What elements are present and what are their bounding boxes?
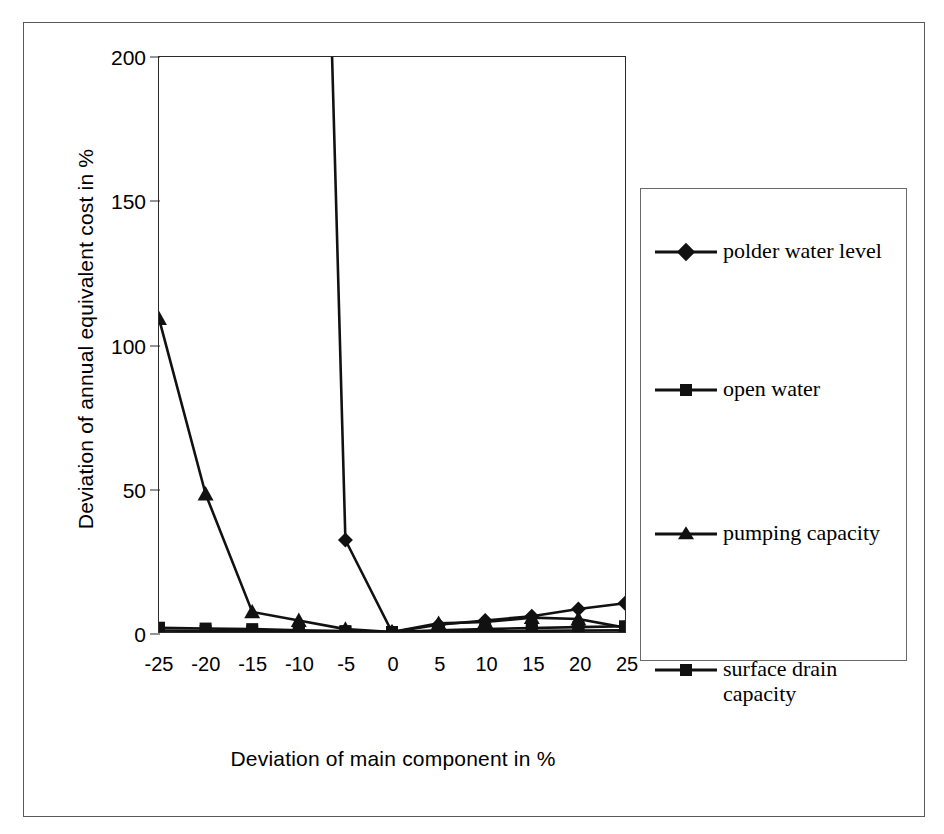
x-axis-tick-label: 5 [434,654,445,674]
data-point-marker-triangle [244,604,260,618]
legend-symbol-square-icon [655,659,717,681]
plot-area: 050100150200-25-20-15-10-50510152025 [158,56,626,633]
x-axis-tick-label: -15 [238,654,267,674]
data-point-marker-diamond [338,533,353,548]
x-axis-tick-label: -10 [285,654,314,674]
y-axis-title: Deviation of annual equivalent cost in % [74,59,108,619]
data-point-marker-square [433,625,445,632]
legend-symbol-triangle-icon [655,523,717,545]
data-point-marker-square [386,626,398,632]
x-axis-tick-label: -25 [145,654,174,674]
scanned-figure-page: Deviation of annual equivalent cost in %… [0,0,944,834]
x-axis-tick-label: 20 [569,654,591,674]
x-axis-tick-label: 10 [475,654,497,674]
square-marker-icon [680,384,692,396]
x-axis-tick-label: 15 [522,654,544,674]
y-axis-tick-label: 150 [111,191,146,212]
y-axis-title-text: Deviation of annual equivalent cost in % [74,149,98,529]
data-point-marker-diamond [618,596,625,611]
legend-symbol-diamond-icon [655,241,717,263]
data-point-marker-square [339,626,351,632]
data-point-marker-square [293,625,305,632]
y-axis-tick-label: 200 [111,47,146,68]
y-axis-tick-mark [150,57,160,58]
legend-item-polder-water-level[interactable]: polder water level [655,239,898,264]
y-axis-tick-label: 50 [123,479,146,500]
triangle-marker-icon [678,526,694,539]
legend-label: polder water level [717,239,882,264]
y-axis-tick-label: 0 [134,624,146,645]
figure-caption [30,820,550,832]
data-point-marker-triangle [198,486,214,500]
series-group [159,57,625,632]
data-point-marker-square [479,625,491,632]
x-axis-tick-label: 0 [387,654,398,674]
legend-item-surface-drain-capacity[interactable]: surface drain capacity [655,657,898,706]
y-axis-tick-mark [150,489,160,490]
x-axis-tick-label: 25 [616,654,638,674]
plot-svg [159,57,625,632]
legend-item-pumping-capacity[interactable]: pumping capacity [655,521,898,546]
x-axis-tick-label: -5 [337,654,355,674]
diamond-marker-icon [677,243,695,261]
y-axis-tick-label: 100 [111,335,146,356]
data-point-marker-square [526,625,538,632]
series-line [299,57,625,632]
x-axis-title: Deviation of main component in % [133,747,653,771]
x-axis-tick-label: -20 [191,654,220,674]
data-point-marker-square [572,625,584,632]
series-line [159,319,625,632]
y-axis-tick-mark [150,634,160,635]
chart-legend: polder water levelopen waterpumping capa… [640,188,907,661]
y-axis-tick-mark [150,201,160,202]
data-point-marker-square [619,624,625,632]
legend-label: pumping capacity [717,521,880,546]
legend-label: open water [717,377,820,402]
data-point-marker-square [246,625,258,632]
legend-label: surface drain capacity [717,657,898,706]
legend-item-open-water[interactable]: open water [655,377,898,402]
y-axis-tick-mark [150,345,160,346]
data-point-marker-square [200,625,212,632]
chart-figure: Deviation of annual equivalent cost in %… [23,22,925,817]
data-point-marker-triangle [159,311,167,325]
data-point-marker-square [159,625,165,632]
legend-symbol-square-icon [655,379,717,401]
square-marker-icon [680,664,692,676]
